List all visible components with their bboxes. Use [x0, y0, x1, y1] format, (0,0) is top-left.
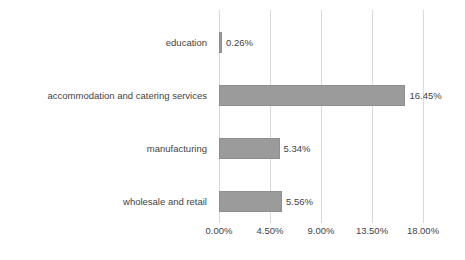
- category-label: manufacturing: [0, 138, 213, 159]
- bar-row: accommodation and catering services16.45…: [0, 85, 465, 106]
- bar-chart: education0.26%accommodation and catering…: [0, 0, 465, 260]
- bar[interactable]: [219, 85, 405, 106]
- bar[interactable]: [219, 138, 280, 159]
- category-label: accommodation and catering services: [0, 85, 213, 106]
- axis-tick-mark: [321, 217, 322, 223]
- axis-tick-label: 13.50%: [356, 225, 388, 236]
- axis-tick-label: 18.00%: [407, 225, 439, 236]
- bar-value-label: 0.26%: [222, 32, 253, 53]
- bar-value-label: 16.45%: [405, 85, 441, 106]
- axis-tick-label: 9.00%: [308, 225, 335, 236]
- axis-tick-mark: [372, 217, 373, 223]
- bar-value-label: 5.56%: [282, 191, 313, 212]
- bar-row: wholesale and retail5.56%: [0, 191, 465, 212]
- bar-row: education0.26%: [0, 32, 465, 53]
- bar[interactable]: [219, 191, 282, 212]
- axis-tick-mark: [270, 217, 271, 223]
- bar-value-label: 5.34%: [280, 138, 311, 159]
- category-label: education: [0, 32, 213, 53]
- axis-tick-label: 0.00%: [206, 225, 233, 236]
- bar-row: manufacturing5.34%: [0, 138, 465, 159]
- axis-tick-mark: [219, 217, 220, 223]
- axis-tick-label: 4.50%: [257, 225, 284, 236]
- axis-tick-mark: [423, 217, 424, 223]
- x-axis: 0.00%4.50%9.00%13.50%18.00%: [0, 217, 465, 243]
- category-label: wholesale and retail: [0, 191, 213, 212]
